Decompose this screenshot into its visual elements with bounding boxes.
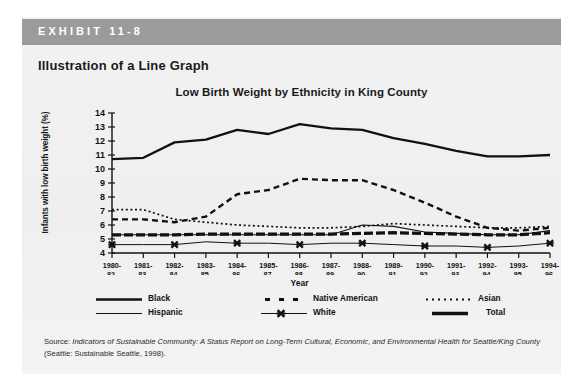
- x-tick-label: 1985-: [259, 261, 278, 270]
- x-tick-label: 83: [138, 270, 146, 275]
- x-tick-label: 1988-: [353, 261, 372, 270]
- x-tick-label: 1994-: [541, 261, 560, 270]
- x-tick-label: 1982-: [165, 261, 184, 270]
- source-suffix: (Seattle: Sustainable Seattle, 1998).: [44, 349, 166, 358]
- y-tick-label: 14: [95, 108, 105, 118]
- x-tick-label: 87: [263, 270, 271, 275]
- x-tick-label: 1987-: [322, 261, 341, 270]
- x-tick-label: 89: [326, 270, 334, 275]
- x-tick-label: 93: [451, 270, 459, 275]
- legend-label: Total: [486, 307, 505, 317]
- x-tick-label: 1992-: [478, 261, 497, 270]
- x-tick-label: 86: [232, 270, 240, 275]
- x-tick-label: 1993-: [510, 261, 529, 270]
- source-note: Source: Indicators of Sustainable Commun…: [44, 336, 544, 359]
- legend-label: Asian: [478, 293, 501, 303]
- x-tick-label: 1990-: [416, 261, 435, 270]
- x-tick-label: 1986-: [291, 261, 310, 270]
- x-tick-label: 1983-: [197, 261, 216, 270]
- line-chart: 45678910111213141980-821981-831982-84198…: [22, 100, 561, 275]
- exhibit-title: Illustration of a Line Graph: [38, 58, 209, 73]
- series-marker-white: [171, 242, 178, 248]
- source-prefix: Source:: [44, 337, 72, 346]
- series-line-black: [112, 124, 550, 159]
- legend-label: Native American: [313, 293, 378, 303]
- y-tick-label: 4: [100, 248, 105, 258]
- series-line-total: [112, 233, 550, 235]
- series-marker-white: [296, 242, 303, 248]
- x-tick-label: 84: [170, 270, 178, 275]
- y-tick-label: 10: [95, 164, 105, 174]
- y-tick-label: 6: [100, 220, 105, 230]
- y-tick-label: 5: [100, 234, 105, 244]
- plot-area: Infants with low birth weight (%) 456789…: [22, 100, 561, 275]
- x-tick-label: 88: [295, 270, 303, 275]
- x-tick-label: 92: [420, 270, 428, 275]
- x-tick-label: 91: [389, 270, 397, 275]
- series-marker-white: [421, 243, 428, 249]
- y-tick-label: 9: [100, 178, 105, 188]
- legend-label: White: [313, 307, 336, 317]
- x-tick-label: 1980-: [103, 261, 122, 270]
- y-tick-label: 8: [100, 192, 105, 202]
- y-tick-label: 12: [95, 136, 105, 146]
- x-tick-label: 90: [357, 270, 365, 275]
- legend-swatch-icon: [261, 306, 309, 319]
- exhibit-number-label: EXHIBIT 11-8: [38, 25, 143, 37]
- legend-swatch-icon: [96, 292, 144, 305]
- chart-title: Low Birth Weight by Ethnicity in King Co…: [0, 86, 583, 98]
- source-title: Indicators of Sustainable Community: A S…: [72, 337, 540, 346]
- y-tick-label: 13: [95, 122, 105, 132]
- chart-title-text: Low Birth Weight by Ethnicity in King Co…: [175, 86, 427, 98]
- series-line-asian: [112, 210, 550, 228]
- legend-label: Black: [148, 293, 170, 303]
- series-marker-white: [546, 240, 553, 246]
- series-marker-white: [484, 244, 491, 250]
- x-tick-label: 1984-: [228, 261, 247, 270]
- x-tick-label: 1991-: [447, 261, 466, 270]
- x-tick-label: 82: [107, 270, 115, 275]
- y-tick-label: 11: [95, 150, 105, 160]
- x-tick-label: 85: [201, 270, 209, 275]
- legend-swatch-icon: [426, 292, 474, 305]
- series-marker-white: [233, 240, 240, 246]
- legend-swatch-icon: [261, 292, 309, 305]
- x-tick-label: 95: [514, 270, 522, 275]
- x-tick-label: 94: [482, 270, 490, 275]
- x-tick-label: 1981-: [134, 261, 153, 270]
- exhibit-page: EXHIBIT 11-8 Illustration of a Line Grap…: [0, 0, 583, 387]
- series-line-native-american: [112, 179, 550, 231]
- series-marker-white: [359, 240, 366, 246]
- x-axis-label-text: Year: [291, 278, 309, 288]
- y-tick-label: 7: [100, 206, 105, 216]
- legend-swatch-icon: [96, 306, 144, 319]
- x-tick-label: 96: [545, 270, 553, 275]
- legend-swatch-icon: [426, 306, 474, 319]
- x-tick-label: 1989-: [384, 261, 403, 270]
- legend-label: Hispanic: [148, 307, 183, 317]
- chart-legend: BlackNative AmericanAsianHispanicWhiteTo…: [96, 292, 546, 322]
- x-axis-label: Year: [0, 278, 583, 288]
